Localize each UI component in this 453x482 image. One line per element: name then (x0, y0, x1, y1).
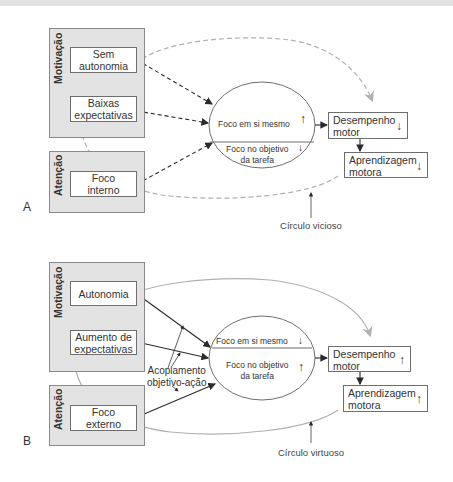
panel-a-loop-caption: Círculo vicioso (280, 220, 342, 231)
panel-a-focus-self-up-icon: ↑ (300, 112, 306, 126)
panel-b-attention-label: Atenção (52, 389, 64, 430)
node-foco-externo: Foco externo (70, 405, 137, 431)
panel-b-focus-self-down-icon: ↓ (298, 335, 303, 346)
node-aumento-expectativas: Aumento de expectativas (70, 330, 137, 355)
coupling-label: Acoplamento objetivo-ação (147, 365, 206, 389)
panel-b-focus-self: Foco em si mesmo (216, 336, 288, 347)
panel-b-desempenho-motor: Desempenho motor ↑ (328, 346, 411, 372)
node-sem-autonomia: Sem autonomia (70, 47, 137, 73)
panel-b-aprendizagem-motora: Aprendizagem motora ↑ (343, 385, 428, 412)
up-arrow-icon: ↑ (399, 354, 405, 366)
node-autonomia: Autonomia (70, 281, 137, 306)
panel-b-motivation-label: Motivação (52, 267, 64, 318)
down-arrow-icon: ↓ (416, 160, 422, 172)
panel-a-focus-task: Foco no objetivo da tarefa (226, 144, 288, 166)
panel-a-aprendizagem-motora: Aprendizagem motora ↓ (344, 152, 428, 178)
node-foco-interno: Foco interno (70, 171, 137, 197)
panel-a-attention-label: Atenção (52, 155, 64, 196)
panel-a-desempenho-motor: Desempenho motor ↓ (328, 112, 408, 139)
panel-b-focus-task-up-icon: ↑ (298, 360, 304, 374)
down-arrow-icon: ↓ (396, 120, 402, 132)
up-arrow-icon: ↑ (416, 393, 422, 405)
panel-a-focus-self: Foco em si mesmo (218, 119, 290, 130)
panel-a-focus-task-down-icon: ↓ (298, 142, 303, 153)
panel-a-motivation-label: Motivação (52, 33, 64, 84)
panel-b-focus-task: Foco no objetivo da tarefa (226, 360, 288, 382)
node-baixas-expectativas: Baixas expectativas (70, 96, 137, 122)
panel-b-loop-caption: Círculo virtuoso (278, 447, 344, 458)
panel-b-letter: B (23, 434, 31, 448)
panel-a-letter: A (23, 200, 31, 214)
